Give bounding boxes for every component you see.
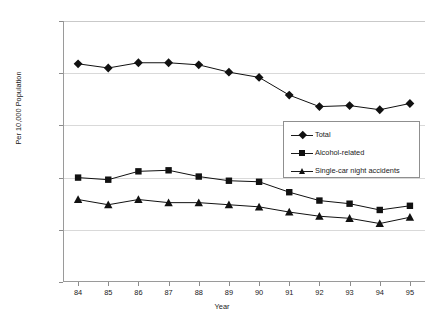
legend-label: Single-car night accidents bbox=[315, 167, 400, 175]
legend-marker-triangle bbox=[299, 168, 305, 174]
x-tick-mark bbox=[319, 282, 320, 286]
x-tick-label: 88 bbox=[184, 289, 214, 297]
x-tick-mark bbox=[169, 282, 170, 286]
x-tick-label: 84 bbox=[63, 289, 93, 297]
x-tick-label: 91 bbox=[274, 289, 304, 297]
legend-item-diamond: Total bbox=[291, 130, 331, 140]
legend-label: Total bbox=[315, 131, 331, 139]
x-tick-label: 85 bbox=[93, 289, 123, 297]
legend-square-icon bbox=[291, 148, 313, 158]
x-tick-mark bbox=[410, 282, 411, 286]
x-tick-label: 94 bbox=[365, 289, 395, 297]
gridline bbox=[64, 230, 425, 231]
y-axis-title: Per 10,000 Population bbox=[15, 18, 23, 198]
x-tick-label: 86 bbox=[123, 289, 153, 297]
x-tick-mark bbox=[138, 282, 139, 286]
line-chart: 0.000.501.001.502.002.50 848586878889909… bbox=[0, 0, 444, 324]
gridline bbox=[64, 73, 425, 74]
x-tick-mark bbox=[380, 282, 381, 286]
legend-marker-diamond bbox=[298, 131, 306, 139]
x-tick-label: 90 bbox=[244, 289, 274, 297]
legend-label: Alcohol-related bbox=[315, 149, 364, 157]
x-tick-mark bbox=[289, 282, 290, 286]
x-tick-mark bbox=[229, 282, 230, 286]
legend-item-triangle: Single-car night accidents bbox=[291, 166, 400, 176]
y-tick-mark bbox=[59, 125, 63, 126]
x-tick-mark bbox=[350, 282, 351, 286]
x-tick-label: 95 bbox=[395, 289, 425, 297]
x-tick-mark bbox=[259, 282, 260, 286]
x-tick-mark bbox=[108, 282, 109, 286]
x-tick-mark bbox=[78, 282, 79, 286]
x-axis-title: Year bbox=[0, 303, 444, 311]
legend-diamond-icon bbox=[291, 130, 313, 140]
gridline bbox=[64, 21, 425, 22]
y-tick-mark bbox=[59, 178, 63, 179]
chart-legend: TotalAlcohol-relatedSingle-car night acc… bbox=[283, 121, 420, 178]
x-tick-label: 92 bbox=[304, 289, 334, 297]
y-tick-mark bbox=[59, 73, 63, 74]
y-tick-mark bbox=[59, 230, 63, 231]
x-tick-mark bbox=[199, 282, 200, 286]
x-tick-label: 89 bbox=[214, 289, 244, 297]
legend-triangle-icon bbox=[291, 166, 313, 176]
x-tick-label: 87 bbox=[154, 289, 184, 297]
y-tick-mark bbox=[59, 282, 63, 283]
x-tick-label: 93 bbox=[335, 289, 365, 297]
legend-item-square: Alcohol-related bbox=[291, 148, 364, 158]
legend-marker-square bbox=[299, 150, 305, 156]
y-tick-mark bbox=[59, 21, 63, 22]
